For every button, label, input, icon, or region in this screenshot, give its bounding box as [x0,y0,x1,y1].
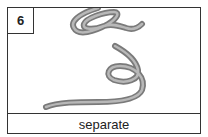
card-caption: separate [8,113,200,134]
card-number: 6 [8,8,34,34]
vocabulary-card: 6 separate [7,7,201,134]
coiled-tube-icon [8,8,200,113]
